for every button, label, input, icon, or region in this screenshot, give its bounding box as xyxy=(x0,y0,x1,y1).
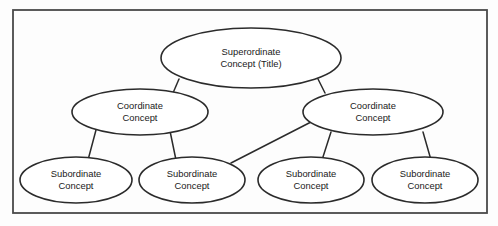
link-super-to-coord-left xyxy=(173,79,179,93)
link-coord-right-to-sub-4 xyxy=(423,132,431,160)
link-coord-right-to-sub-3 xyxy=(322,132,331,160)
subordinate-concept-3-label-line2: Concept xyxy=(294,180,329,191)
subordinate-concept-2-label-line2: Concept xyxy=(175,180,210,191)
node-subordinate-concept-2[interactable]: SubordinateConcept xyxy=(139,157,245,203)
superordinate-concept-label-line1: Superordinate xyxy=(222,46,281,57)
concept-map-diagram: SuperordinateConcept (Title)CoordinateCo… xyxy=(0,0,498,226)
node-subordinate-concept-3[interactable]: SubordinateConcept xyxy=(258,157,364,203)
diagram-canvas: SuperordinateConcept (Title)CoordinateCo… xyxy=(0,0,498,226)
coordinate-concept-right-label-line1: Coordinate xyxy=(350,100,396,111)
subordinate-concept-4-label-line2: Concept xyxy=(408,180,443,191)
node-coordinate-concept-left[interactable]: CoordinateConcept xyxy=(72,89,208,135)
subordinate-concept-2-label-line1: Subordinate xyxy=(167,168,218,179)
link-super-to-coord-right xyxy=(318,79,325,93)
subordinate-concept-1-label-line2: Concept xyxy=(59,180,94,191)
subordinate-concept-1-label-line1: Subordinate xyxy=(51,168,102,179)
node-subordinate-concept-1[interactable]: SubordinateConcept xyxy=(20,157,132,203)
node-coordinate-concept-right[interactable]: CoordinateConcept xyxy=(303,89,443,135)
subordinate-concept-3-label-line1: Subordinate xyxy=(286,168,337,179)
node-subordinate-concept-4[interactable]: SubordinateConcept xyxy=(372,157,478,203)
subordinate-concept-4-label-line1: Subordinate xyxy=(400,168,451,179)
node-group: SuperordinateConcept (Title)CoordinateCo… xyxy=(20,28,478,203)
link-coord-left-to-sub-1 xyxy=(88,130,96,160)
link-coord-left-to-sub-2 xyxy=(170,131,176,160)
node-superordinate-concept[interactable]: SuperordinateConcept (Title) xyxy=(161,28,341,88)
coordinate-concept-left-label-line2: Concept xyxy=(123,112,158,123)
coordinate-concept-right-label-line2: Concept xyxy=(356,112,391,123)
superordinate-concept-label-line2: Concept (Title) xyxy=(220,58,281,69)
coordinate-concept-left-label-line1: Coordinate xyxy=(117,100,163,111)
